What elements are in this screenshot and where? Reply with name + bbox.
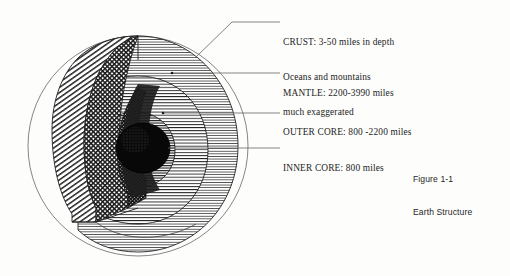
dot-outer-core	[162, 112, 165, 115]
figure-caption-title: Earth Structure	[413, 207, 472, 218]
figure-caption-id: Figure 1-1	[413, 174, 472, 185]
label-mantle-line-1: MANTLE: 2200-3990 miles	[283, 88, 394, 100]
label-inner-core-line-1: INNER CORE: 800 miles	[283, 163, 384, 175]
inner-core-texture	[121, 127, 149, 153]
label-inner-core: INNER CORE: 800 miles	[283, 140, 384, 198]
dot-mantle	[171, 72, 174, 75]
globe-cutaway	[52, 36, 238, 252]
label-outer-core-line-1: OUTER CORE: 800 -2200 miles	[283, 127, 412, 139]
figure-caption: Figure 1-1 Earth Structure	[413, 152, 472, 240]
figure-page: CRUST: 3-50 miles in depth Oceans and mo…	[0, 0, 510, 276]
label-crust-line-1: CRUST: 3-50 miles in depth	[283, 37, 394, 49]
leader-crust	[196, 22, 280, 57]
